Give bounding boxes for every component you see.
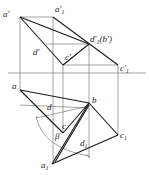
label-c-prime: c′ — [65, 52, 72, 62]
label-a1: a1 — [41, 160, 49, 171]
point-labels: a′ a′1 d′1(b′) d′ c′ c′1 a b d c c1 β d1… — [3, 4, 129, 171]
label-beta: β — [54, 131, 60, 141]
projection-diagram: a′ a′1 d′1(b′) d′ c′ c′1 a b d c c1 β d1… — [0, 0, 149, 175]
label-c1-prime: c′1 — [120, 63, 129, 74]
label-c: c — [62, 121, 66, 131]
label-b: b — [92, 95, 97, 105]
label-d-prime: d′ — [33, 47, 41, 57]
label-d: d — [47, 102, 52, 112]
label-a1-prime: a′1 — [55, 4, 64, 15]
label-c1: c1 — [120, 130, 127, 141]
label-d1: d1 — [80, 138, 88, 149]
label-a-prime: a′ — [3, 9, 11, 19]
label-d1-prime-b-prime: d′1(b′) — [90, 34, 112, 45]
label-a: a — [12, 81, 17, 91]
